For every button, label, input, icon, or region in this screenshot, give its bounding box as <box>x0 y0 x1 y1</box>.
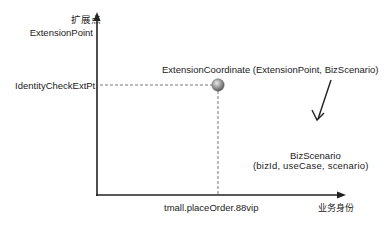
x-axis <box>96 192 346 199</box>
coordinate-diagram: 扩展点 ExtensionPoint IdentityCheckExtPt Ex… <box>0 0 387 230</box>
y-axis-title-en: ExtensionPoint <box>30 27 93 38</box>
y-axis <box>94 12 101 196</box>
point-label: ExtensionCoordinate (ExtensionPoint, Biz… <box>162 64 379 75</box>
annotation-arrow-icon <box>312 80 331 120</box>
coordinate-point-icon <box>212 79 224 91</box>
y-axis-tick-label: IdentityCheckExtPt <box>15 80 95 91</box>
y-axis-title-cn: 扩展点 <box>71 14 101 25</box>
x-axis-title: 业务身份 <box>318 203 354 214</box>
x-axis-arrow-icon <box>337 192 346 199</box>
annotation-params: (bizId, useCase, scenario) <box>253 160 369 171</box>
x-axis-tick-label: tmall.placeOrder.88vip <box>164 202 259 213</box>
